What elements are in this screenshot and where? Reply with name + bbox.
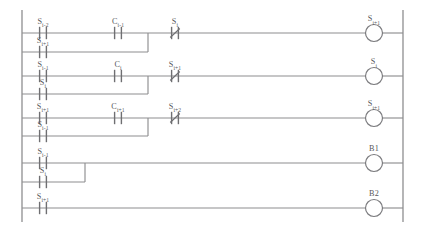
rung: Si-1CiSi+1SiSi xyxy=(22,57,403,100)
contact-label: Si-1 xyxy=(37,60,48,71)
contact-label: Si-1 xyxy=(37,147,48,158)
contact-normally-closed[interactable]: Si+1 xyxy=(169,60,182,83)
coil-circle xyxy=(366,110,383,127)
ladder-logic-svg: Si-2Ci-1SiSi+1Si+1Si-1CiSi+1SiSiSi+1Ci+1… xyxy=(0,0,424,233)
output-coil[interactable]: B1 xyxy=(366,144,383,171)
contact-label: Si+1 xyxy=(37,102,50,113)
contact-label: Si+2 xyxy=(169,102,182,113)
contact-label: Si xyxy=(172,17,179,28)
output-coil[interactable]: Si+1 xyxy=(366,14,383,41)
coil-circle xyxy=(366,68,383,85)
coil-label: B1 xyxy=(369,144,379,153)
contact-label: Ci xyxy=(114,60,122,71)
power-rails xyxy=(22,10,403,222)
contact-label: Si-2 xyxy=(37,17,48,28)
contact-label: Si xyxy=(40,166,47,177)
rung: Si+1Ci+1Si+2Si+1Si-1 xyxy=(22,99,403,142)
contact-label: Si+1 xyxy=(37,192,50,203)
coil-circle xyxy=(366,25,383,42)
contact-normally-open[interactable]: Si xyxy=(40,166,47,189)
rung: Si-1B1Si xyxy=(22,144,403,188)
contact-normally-closed[interactable]: Si xyxy=(170,17,180,40)
contact-normally-open[interactable]: Ci+1 xyxy=(111,102,124,125)
contact-label: Si xyxy=(40,78,47,89)
contact-normally-open[interactable]: Ci-1 xyxy=(112,17,124,40)
contact-normally-open[interactable]: Si+1 xyxy=(37,192,50,215)
rung: Si-2Ci-1SiSi+1Si+1 xyxy=(22,14,403,58)
coil-circle xyxy=(366,155,383,172)
contact-label: Ci+1 xyxy=(111,102,124,113)
contact-normally-open[interactable]: Si xyxy=(40,78,47,101)
rung: Si+1B2 xyxy=(22,189,403,216)
coil-circle xyxy=(366,200,383,217)
coil-label: Si+1 xyxy=(368,99,381,110)
contact-label: Si+1 xyxy=(37,36,50,47)
contact-normally-open[interactable]: Ci xyxy=(114,60,122,83)
coil-label: Si xyxy=(371,57,378,68)
output-coil[interactable]: Si xyxy=(366,57,383,84)
coil-label: B2 xyxy=(369,189,379,198)
ladder-diagram-canvas: Si-2Ci-1SiSi+1Si+1Si-1CiSi+1SiSiSi+1Ci+1… xyxy=(0,0,424,233)
contact-label: Si+1 xyxy=(169,60,182,71)
contact-normally-open[interactable]: Si+1 xyxy=(37,36,50,59)
rungs-group: Si-2Ci-1SiSi+1Si+1Si-1CiSi+1SiSiSi+1Ci+1… xyxy=(22,14,403,216)
contact-normally-closed[interactable]: Si+2 xyxy=(169,102,182,125)
output-coil[interactable]: B2 xyxy=(366,189,383,216)
coil-label: Si+1 xyxy=(368,14,381,25)
contact-label: Ci-1 xyxy=(112,17,124,28)
output-coil[interactable]: Si+1 xyxy=(366,99,383,126)
